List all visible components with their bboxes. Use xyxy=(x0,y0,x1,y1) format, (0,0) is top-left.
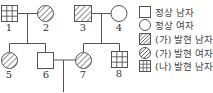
individual-4-female-normal xyxy=(111,6,127,22)
individual-7-female-trait-a xyxy=(76,53,92,69)
normal-female-icon xyxy=(139,19,151,31)
legend-label: (나) 발현 남자 xyxy=(155,59,213,73)
trait-a-male-icon xyxy=(139,33,151,45)
individual-label-8: 8 xyxy=(111,68,127,79)
individual-1-male-trait-b xyxy=(2,6,18,22)
individual-label-5: 5 xyxy=(1,69,17,80)
trait-a-female-icon xyxy=(139,47,151,59)
individual-label-3: 3 xyxy=(75,22,91,33)
individual-3-male-trait-a xyxy=(75,6,92,22)
individual-label-4: 4 xyxy=(111,22,127,33)
individual-label-7: 7 xyxy=(75,69,91,80)
legend-item-normal-female: 정상 여자 xyxy=(139,19,213,33)
individual-6-male-normal xyxy=(38,53,54,69)
trait-b-male-icon xyxy=(139,60,151,72)
legend-label: 정상 여자 xyxy=(155,18,194,32)
legend-item-trait-b-male: (나) 발현 남자 xyxy=(139,59,213,73)
legend-label: (가) 발현 여자 xyxy=(155,46,213,60)
individual-label-2: 2 xyxy=(38,22,54,33)
pedigree-lines xyxy=(10,14,120,93)
legend-label: 정상 남자 xyxy=(155,5,194,19)
individual-2-female-trait-a xyxy=(38,6,54,22)
individual-label-6: 6 xyxy=(38,69,54,80)
individual-8-male-trait-b xyxy=(112,52,128,68)
legend-item-trait-a-male: (가) 발현 남자 xyxy=(139,32,213,46)
legend-label: (가) 발현 남자 xyxy=(155,32,213,46)
normal-male-icon xyxy=(139,6,151,18)
individual-label-1: 1 xyxy=(1,22,17,33)
individual-5-female-trait-a xyxy=(2,53,18,69)
legend: 정상 남자 정상 여자 (가) 발현 남자 (가) 발현 여자 (나) 발현 남… xyxy=(139,5,213,73)
legend-item-normal-male: 정상 남자 xyxy=(139,5,213,19)
legend-item-trait-a-female: (가) 발현 여자 xyxy=(139,46,213,60)
